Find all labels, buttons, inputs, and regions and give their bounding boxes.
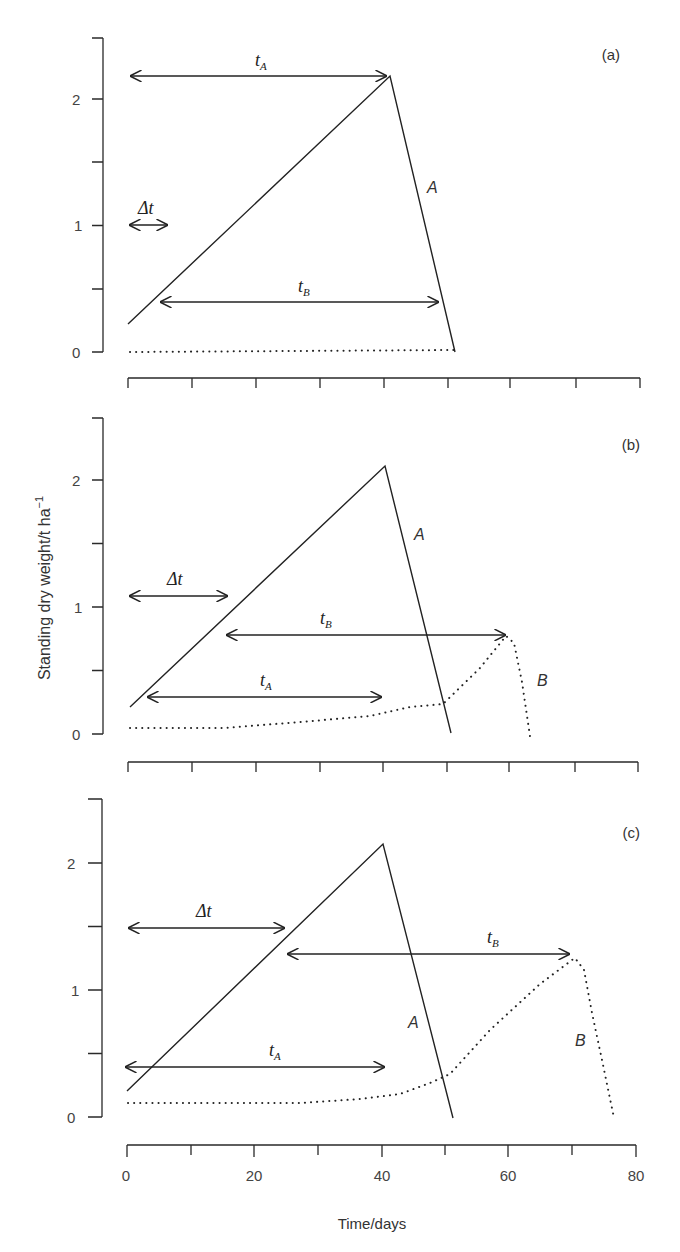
y-axis-title: Standing dry weight/t ha−1 [33, 496, 53, 680]
curve-a-label: A [413, 526, 425, 543]
t-b-label: tB [487, 927, 499, 949]
figure-canvas: 0 1 2 tA tB Δt A (a) 0 1 2 tA tB Δt A B [0, 0, 680, 1252]
y-tick-1: 1 [74, 599, 82, 616]
t-a-label: tA [255, 50, 267, 72]
panel-label-a: (a) [602, 46, 620, 63]
y-tick-1: 1 [71, 982, 79, 999]
delta-t-label: Δt [195, 901, 213, 921]
curve-a-line [127, 844, 453, 1118]
x-tick-80: 80 [628, 1167, 645, 1184]
t-b-label: tB [320, 608, 332, 630]
x-tick-40: 40 [374, 1167, 391, 1184]
x-axis [128, 378, 640, 388]
panel-b: 0 1 2 tA tB Δt A B (b) [72, 418, 640, 772]
panel-c: 0 1 2 0 20 40 60 80 tA tB Δt A B (c) [67, 799, 644, 1184]
curve-b-line [130, 350, 455, 352]
curve-b-label: B [575, 1032, 586, 1049]
y-tick-0: 0 [67, 1109, 75, 1126]
x-axis [127, 1145, 636, 1157]
curve-a-label: A [407, 1014, 419, 1031]
y-axis [92, 38, 103, 352]
svg-text:Standing dry weight/t ha−1: Standing dry weight/t ha−1 [33, 496, 53, 680]
curve-a-line [128, 76, 455, 352]
y-tick-0: 0 [72, 726, 80, 743]
x-axis [128, 762, 638, 772]
t-a-label: tA [260, 670, 272, 692]
t-a-label: tA [269, 1040, 281, 1062]
y-tick-0: 0 [72, 344, 80, 361]
y-tick-2: 2 [72, 91, 80, 108]
x-tick-0: 0 [122, 1167, 130, 1184]
delta-t-label: Δt [137, 198, 155, 218]
y-axis [88, 799, 102, 1117]
y-axis [92, 418, 103, 734]
curve-a-label: A [426, 179, 438, 196]
curve-b-label: B [537, 672, 548, 689]
panel-a: 0 1 2 tA tB Δt A (a) [72, 38, 640, 388]
panel-label-c: (c) [623, 824, 641, 841]
x-tick-60: 60 [500, 1167, 517, 1184]
y-tick-2: 2 [67, 855, 75, 872]
x-tick-20: 20 [246, 1167, 263, 1184]
y-tick-2: 2 [72, 472, 80, 489]
delta-t-label: Δt [166, 569, 184, 589]
y-tick-1: 1 [74, 217, 82, 234]
curve-b-line [128, 958, 614, 1118]
t-b-label: tB [298, 276, 310, 298]
panel-label-b: (b) [622, 436, 640, 453]
curve-a-line [130, 466, 451, 733]
x-axis-title: Time/days [338, 1215, 407, 1232]
